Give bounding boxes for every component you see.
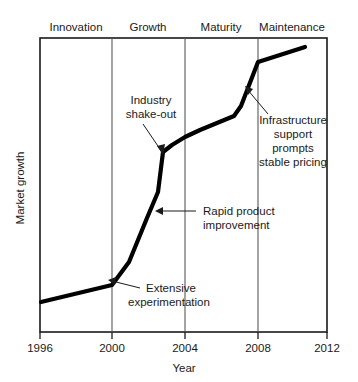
x-tick-label-2004: 2004 (172, 342, 198, 354)
arrowhead-rapid-product (155, 207, 163, 215)
market-growth-line-chart: Innovation Growth Maturity Maintenance 1… (0, 0, 358, 382)
x-tick-label-2008: 2008 (245, 342, 271, 354)
phase-label-maintenance: Maintenance (259, 21, 325, 33)
annotation-infrastructure-line3: prompts (272, 142, 314, 154)
annotation-rapid-line1: Rapid product (203, 205, 275, 217)
phase-label-innovation: Innovation (49, 21, 102, 33)
y-axis-title: Market growth (14, 152, 26, 225)
annotation-industry-shakeout-line1: Industry (131, 94, 172, 106)
annotation-extensive-line1: Extensive (146, 282, 196, 294)
annotation-extensive-line2: experimentation (128, 296, 210, 308)
annotation-infrastructure-line4: stable pricing (259, 156, 327, 168)
x-tick-label-1996: 1996 (27, 342, 53, 354)
annotation-industry-shakeout-line2: shake-out (126, 108, 177, 120)
phase-label-growth: Growth (129, 21, 166, 33)
x-axis-title: Year (172, 362, 195, 374)
annotation-infrastructure-line2: support (274, 128, 313, 140)
leader-line-extensive (112, 281, 140, 288)
x-tick-label-2000: 2000 (99, 342, 125, 354)
market-growth-data-line (41, 47, 305, 302)
x-tick-label-2012: 2012 (314, 342, 340, 354)
annotation-rapid-line2: improvement (203, 219, 270, 231)
chart-container: Innovation Growth Maturity Maintenance 1… (0, 0, 358, 382)
annotation-infrastructure-line1: Infrastructure (259, 114, 327, 126)
phase-label-maturity: Maturity (201, 21, 242, 33)
